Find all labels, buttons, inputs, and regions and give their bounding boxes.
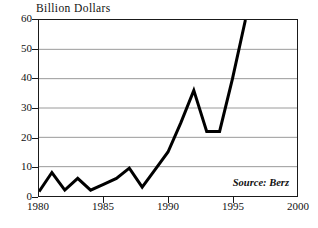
x-tick-label-1980: 1980 (15, 200, 61, 212)
y-tick-mark-30 (32, 108, 38, 109)
x-tick-mark-1990 (168, 197, 169, 203)
y-tick-mark-0 (32, 197, 38, 198)
y-tick-mark-60 (32, 19, 38, 20)
series-line-0 (39, 20, 245, 192)
y-tick-mark-10 (32, 167, 38, 168)
chart-title: Billion Dollars (36, 2, 111, 14)
y-tick-label-50: 50 (6, 43, 32, 54)
y-tick-mark-50 (32, 49, 38, 50)
x-tick-label-2000: 2000 (275, 200, 318, 212)
y-tick-label-10: 10 (6, 161, 32, 172)
y-tick-label-60: 60 (6, 13, 32, 24)
y-tick-label-20: 20 (6, 132, 32, 143)
y-tick-label-30: 30 (6, 102, 32, 113)
chart-figure: Billion Dollars Source: Berz 60504030201… (0, 0, 318, 228)
source-annotation: Source: Berz (233, 177, 289, 188)
y-tick-mark-40 (32, 78, 38, 79)
x-tick-mark-1995 (233, 197, 234, 203)
y-tick-label-40: 40 (6, 72, 32, 83)
data-line-series (39, 20, 297, 196)
y-tick-mark-20 (32, 138, 38, 139)
x-tick-mark-1985 (103, 197, 104, 203)
plot-area: Source: Berz (38, 19, 298, 197)
